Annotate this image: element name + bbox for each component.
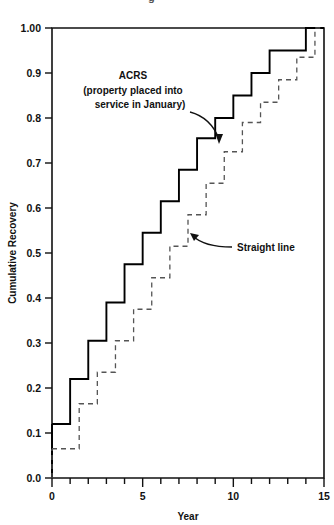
straight-line-annotation: Straight line [237,242,295,253]
y-tick-label: 0.1 [26,427,41,439]
chart-figure: g 0.00.10.20.30.40.50.60.70.80.91.000510… [0,0,334,525]
x-tick-label: 15 [318,490,330,502]
y-tick-label: 0.8 [26,112,41,124]
x-axis-label: Year [177,511,198,522]
y-tick-label: 0.2 [26,382,41,394]
y-tick-label: 0.9 [26,67,41,79]
y-tick-label: 1.00 [21,22,42,34]
x-tick-label: 0 [49,490,55,502]
y-tick-label: 0.6 [26,202,41,214]
y-tick-label: 0.4 [26,292,41,304]
chart-canvas: 0.00.10.20.30.40.50.60.70.80.91.00051015… [0,0,334,525]
straight-line-leader [193,236,232,247]
y-tick-label: 0.5 [26,247,41,259]
acrs-annotation-line-2: (property placed into [83,85,182,96]
acrs-annotation-line-1: ACRS [119,70,148,81]
y-tick-label: 0.3 [26,337,41,349]
x-tick-label: 5 [140,490,146,502]
x-tick-label: 10 [227,490,239,502]
y-axis-label: Cumulative Recovery [7,202,18,304]
acrs-annotation-line-3: service in January) [95,99,186,110]
acrs-arrow-head [216,134,224,144]
y-tick-label: 0.7 [26,157,41,169]
y-tick-label: 0.0 [26,472,41,484]
